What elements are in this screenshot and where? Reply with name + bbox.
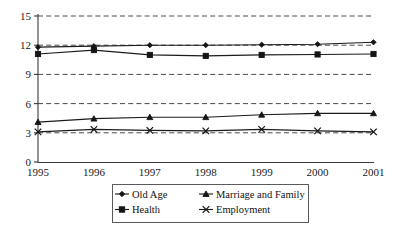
legend-label: Health xyxy=(132,204,161,215)
legend-label: Employment xyxy=(216,204,270,215)
legend-label: Marriage and Family xyxy=(216,189,305,200)
x-tick-label: 1999 xyxy=(251,166,274,178)
y-tick-label: 12 xyxy=(20,39,31,51)
data-point-marker-square xyxy=(371,51,376,56)
data-point-marker-square xyxy=(203,53,208,58)
data-point-marker-square xyxy=(147,52,152,57)
y-tick-label: 6 xyxy=(26,98,32,110)
line-chart: 03691215 1995199619971998199920002001 Ol… xyxy=(0,0,395,234)
data-point-marker-square xyxy=(91,47,96,52)
x-tick-label: 2001 xyxy=(363,166,385,178)
data-point-marker-square xyxy=(315,52,320,57)
x-tick-label: 1996 xyxy=(83,166,106,178)
y-tick-label: 3 xyxy=(26,127,32,139)
x-tick-label: 2000 xyxy=(307,166,330,178)
data-point-marker-square xyxy=(259,52,264,57)
x-tick-label: 1997 xyxy=(139,166,162,178)
chart-canvas: 03691215 1995199619971998199920002001 Ol… xyxy=(0,0,395,234)
legend-label: Old Age xyxy=(132,189,168,200)
x-tick-label: 1998 xyxy=(195,166,218,178)
y-tick-label: 15 xyxy=(20,10,32,22)
data-point-marker-square xyxy=(35,51,40,56)
x-tick-label: 1995 xyxy=(27,166,50,178)
data-point-marker-square xyxy=(119,207,124,212)
y-tick-label: 9 xyxy=(26,68,32,80)
